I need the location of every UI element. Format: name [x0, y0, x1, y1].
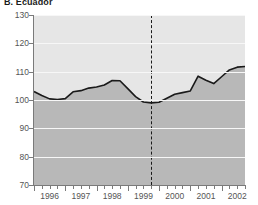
x-axis-tick-major	[65, 185, 66, 191]
gridline	[34, 15, 245, 16]
gridline	[34, 157, 245, 158]
x-axis-tick-minor	[73, 185, 74, 189]
y-axis-tick-label: 80	[1, 153, 29, 161]
x-axis-tick-minor	[104, 185, 105, 189]
x-axis-tick-minor	[245, 185, 246, 189]
y-axis-tick	[29, 128, 34, 129]
x-axis-tick-major	[97, 185, 98, 191]
x-axis-tick-minor	[175, 185, 176, 189]
x-axis-tick-minor	[237, 185, 238, 189]
x-axis-tick-minor	[167, 185, 168, 189]
x-axis-tick-minor	[206, 185, 207, 189]
x-axis-tick-minor	[81, 185, 82, 189]
x-axis-tick-minor	[42, 185, 43, 189]
x-axis-tick-minor	[89, 185, 90, 189]
y-axis-tick	[29, 185, 34, 186]
x-axis-tick-label: 2002	[228, 191, 247, 201]
y-axis-tick	[29, 157, 34, 158]
y-axis-tick	[29, 15, 34, 16]
area-fill	[34, 67, 245, 185]
y-axis-tick-label: 130	[1, 11, 29, 19]
x-axis-tick-minor	[182, 185, 183, 189]
x-axis-tick-major	[128, 185, 129, 191]
x-axis-tick-minor	[198, 185, 199, 189]
y-axis-tick-label: 100	[1, 96, 29, 104]
x-axis-tick-major	[159, 185, 160, 191]
plot-area	[34, 15, 245, 185]
x-axis-tick-major	[222, 185, 223, 191]
x-axis-tick-minor	[143, 185, 144, 189]
y-axis-tick	[29, 100, 34, 101]
gridline	[34, 43, 245, 44]
x-axis-tick-label: 1997	[71, 191, 90, 201]
x-axis-tick-minor	[57, 185, 58, 189]
chart-figure: B. Ecuador 708090100110120130 1996199719…	[0, 0, 258, 205]
x-axis-tick-minor	[214, 185, 215, 189]
y-axis-tick	[29, 72, 34, 73]
y-axis-labels: 708090100110120130	[0, 0, 29, 205]
y-axis-tick-label: 110	[1, 68, 29, 76]
x-axis-tick-label: 1998	[103, 191, 122, 201]
y-axis-tick-label: 120	[1, 39, 29, 47]
gridline	[34, 72, 245, 73]
x-axis-tick-label: 1996	[40, 191, 59, 201]
y-axis-tick	[29, 43, 34, 44]
gridline	[34, 128, 245, 129]
x-axis-tick-label: 1999	[134, 191, 153, 201]
x-axis-tick-minor	[229, 185, 230, 189]
x-axis-tick-minor	[50, 185, 51, 189]
x-axis-tick-label: 2001	[196, 191, 215, 201]
x-axis-tick-minor	[120, 185, 121, 189]
gridline	[34, 100, 245, 101]
x-axis-tick-major	[34, 185, 35, 191]
x-axis-tick-minor	[136, 185, 137, 189]
x-axis-tick-minor	[151, 185, 152, 189]
x-axis-tick-minor	[112, 185, 113, 189]
y-axis-tick-label: 90	[1, 124, 29, 132]
y-axis-tick-label: 70	[1, 181, 29, 189]
x-axis-tick-major	[190, 185, 191, 191]
x-axis-tick-label: 2000	[165, 191, 184, 201]
